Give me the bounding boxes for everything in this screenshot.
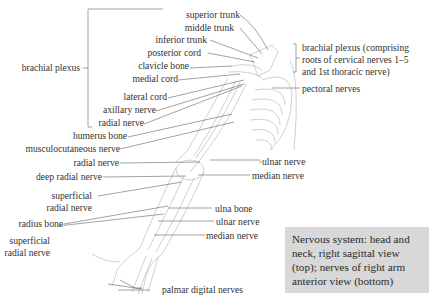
caption-line-3: (top); nerves of right arm xyxy=(292,260,422,274)
brachial-plexus-group-label: brachial plexus xyxy=(0,63,80,73)
label-inferior-trunk: inferior trunk xyxy=(130,35,207,45)
label-radial-nerve-upper: radial nerve xyxy=(90,118,144,128)
caption-line-2: neck, right sagittal view xyxy=(292,246,422,260)
label-deep-radial-nerve: deep radial nerve xyxy=(20,172,102,182)
label-superficial-radial-nerve-1-line1: superficial xyxy=(20,191,92,201)
label-radial-nerve-elbow: radial nerve xyxy=(40,158,119,168)
label-clavicle-bone: clavicle bone xyxy=(120,61,189,71)
label-palmar-digital-nerves: palmar digital nerves xyxy=(162,285,243,295)
label-ulna-bone: ulna bone xyxy=(215,204,253,214)
label-superficial-radial-nerve-2-line2: radial nerve xyxy=(0,248,50,258)
brachial-plexus-roots-line3: and 1st thoracic nerve) xyxy=(302,67,390,77)
label-radius-bone: radius bone xyxy=(0,219,63,229)
label-musculocutaneous-nerve: musculocutaneous nerve xyxy=(0,144,120,154)
label-ulnar-nerve-elbow: ulnar nerve xyxy=(262,157,305,167)
label-middle-trunk: middle trunk xyxy=(150,23,234,33)
label-humerus-bone: humerus bone xyxy=(60,131,127,141)
label-superficial-radial-nerve-2-line1: superficial xyxy=(0,236,50,246)
label-lateral-cord: lateral cord xyxy=(100,92,167,102)
caption-line-4: anterior view (bottom) xyxy=(292,274,422,288)
label-pectoral-nerves: pectoral nerves xyxy=(302,84,360,94)
label-medial-cord: medial cord xyxy=(110,74,178,84)
label-superior-trunk: superior trunk xyxy=(150,10,240,20)
label-ulnar-nerve-forearm: ulnar nerve xyxy=(216,217,259,227)
caption-box: Nervous system: head and neck, right sag… xyxy=(285,227,429,293)
label-superficial-radial-nerve-1-line2: radial nerve xyxy=(20,203,92,213)
brachial-plexus-roots-line1: brachial plexus (comprising xyxy=(302,43,409,53)
caption-line-1: Nervous system: head and xyxy=(292,232,422,246)
brachial-plexus-roots-line2: roots of cervical nerves 1–5 xyxy=(302,55,409,65)
label-axillary-nerve: axillary nerve xyxy=(90,105,156,115)
label-median-nerve-forearm: median nerve xyxy=(206,231,258,241)
label-posterior-cord: posterior cord xyxy=(120,48,201,58)
label-median-nerve-elbow: median nerve xyxy=(252,171,304,181)
